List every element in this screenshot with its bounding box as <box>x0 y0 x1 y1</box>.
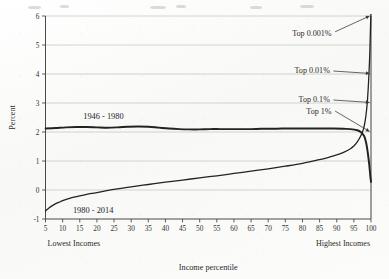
chart-annotations: Top 0.001%Top 0.01%Top 0.1%Top 1% <box>292 16 369 132</box>
x-tick-label-40: 40 <box>162 224 170 233</box>
series-line-1946-1980 <box>46 126 372 181</box>
x-tick-label-90: 90 <box>333 224 341 233</box>
x-tick-labels: 5101520253035404550556065707580859095100 <box>44 224 377 233</box>
x-tick-label-65: 65 <box>247 224 255 233</box>
y-tick-labels: -10123456 <box>33 12 39 224</box>
x-axis-left-end-label: Lowest Incomes <box>48 239 101 248</box>
y-axis-title: Percent <box>8 105 17 130</box>
y-tick-label-1: 1 <box>36 157 40 166</box>
x-tick-label-75: 75 <box>282 224 290 233</box>
annotation-label-1: Top 0.01% <box>294 66 330 75</box>
x-tick-label-10: 10 <box>59 224 67 233</box>
annotation-arrow-2 <box>333 100 369 102</box>
chart-figure: 5101520253035404550556065707580859095100… <box>0 0 389 279</box>
x-axis-right-end-label: Highest Incomes <box>316 239 370 248</box>
y-tick-label-6: 6 <box>36 12 40 21</box>
x-tick-label-35: 35 <box>145 224 153 233</box>
x-tick-label-30: 30 <box>128 224 136 233</box>
series-label-1980-2014: 1980 - 2014 <box>73 206 114 215</box>
y-tick-label-5: 5 <box>36 41 40 50</box>
y-tick-label-0: 0 <box>36 186 40 195</box>
y-tick-label--1: -1 <box>33 215 39 224</box>
y-tick-label-3: 3 <box>36 99 40 108</box>
annotation-arrow-0 <box>335 16 369 32</box>
y-tick-label-4: 4 <box>36 70 40 79</box>
x-tick-label-60: 60 <box>230 224 238 233</box>
x-tick-label-50: 50 <box>196 224 204 233</box>
x-axis-title: Income percentile <box>179 263 238 272</box>
series-label-1946-1980: 1946 - 1980 <box>83 112 123 121</box>
x-tick-label-70: 70 <box>265 224 273 233</box>
annotation-label-2: Top 0.1% <box>299 95 331 104</box>
annotation-label-3: Top 1% <box>306 107 332 116</box>
annotation-arrow-1 <box>333 71 369 73</box>
x-tick-label-55: 55 <box>213 224 221 233</box>
income-percentile-line-chart: 5101520253035404550556065707580859095100… <box>0 0 389 279</box>
y-tick-label-2: 2 <box>36 128 40 137</box>
x-tick-label-100: 100 <box>366 224 377 233</box>
x-tick-label-85: 85 <box>316 224 324 233</box>
x-tick-label-5: 5 <box>44 224 48 233</box>
x-tick-label-20: 20 <box>93 224 101 233</box>
x-tick-label-80: 80 <box>299 224 307 233</box>
annotation-label-0: Top 0.001% <box>292 29 332 38</box>
x-tick-label-25: 25 <box>110 224 118 233</box>
x-tick-label-95: 95 <box>350 224 358 233</box>
x-tick-label-45: 45 <box>179 224 187 233</box>
x-tick-label-15: 15 <box>76 224 84 233</box>
